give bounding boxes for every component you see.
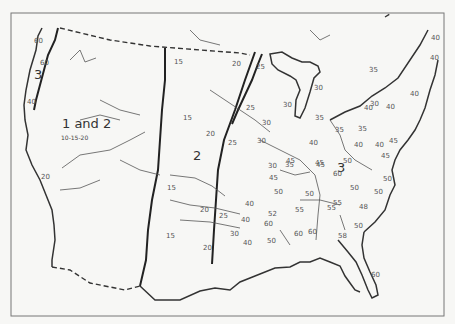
value-label: 40 <box>27 98 36 106</box>
value-label: 25 <box>246 104 255 112</box>
value-label: 50 <box>354 222 363 230</box>
value-label: 45 <box>316 161 325 169</box>
mexico-border <box>52 267 140 290</box>
value-label: 40 <box>309 139 318 147</box>
value-label: 60 <box>371 271 380 279</box>
value-label: 15 <box>174 58 183 66</box>
value-label: 55 <box>295 206 304 214</box>
zone-label: 3 <box>34 67 42 82</box>
value-label: 40 <box>386 103 395 111</box>
value-label: 45 <box>389 137 398 145</box>
zone-sublabel: 10-15-20 <box>61 134 88 141</box>
value-label: 15 <box>183 114 192 122</box>
value-label: 60 <box>294 230 303 238</box>
zone-label: 1 and 2 <box>62 116 111 131</box>
value-label: 45 <box>381 152 390 160</box>
value-label: 45 <box>269 174 278 182</box>
value-label: 20 <box>206 130 215 138</box>
value-label: 20 <box>232 60 241 68</box>
gulf-coastline <box>140 258 360 300</box>
value-label: 25 <box>219 212 228 220</box>
value-label: 60 <box>333 170 342 178</box>
lake-erie-ontario <box>330 30 428 120</box>
value-label: 15 <box>167 184 176 192</box>
value-label: 40 <box>430 54 439 62</box>
value-label: 48 <box>359 203 368 211</box>
value-label: 40 <box>243 239 252 247</box>
value-label: 55 <box>333 199 342 207</box>
value-label: 40 <box>241 216 250 224</box>
value-label: 35 <box>335 126 344 134</box>
value-label: 60 <box>308 228 317 236</box>
value-label: 52 <box>268 210 277 218</box>
value-label: 40 <box>364 104 373 112</box>
value-label: 50 <box>374 188 383 196</box>
value-label: 35 <box>369 66 378 74</box>
great-lakes-outline <box>270 52 320 118</box>
value-label: 60 <box>264 220 273 228</box>
value-label: 40 <box>410 90 419 98</box>
value-label: 20 <box>200 206 209 214</box>
value-label: 40 <box>375 141 384 149</box>
value-label: 20 <box>203 244 212 252</box>
value-label: 60 <box>40 59 49 67</box>
value-label: 25 <box>228 139 237 147</box>
value-label: 30 <box>283 101 292 109</box>
value-label: 60 <box>34 37 43 45</box>
value-label: 45 <box>286 157 295 165</box>
value-label: 50 <box>350 184 359 192</box>
value-label: 40 <box>431 34 440 42</box>
value-label: 30 <box>268 162 277 170</box>
value-label: 35 <box>358 125 367 133</box>
value-label: 50 <box>274 188 283 196</box>
canada-border <box>60 14 390 55</box>
value-label: 50 <box>305 190 314 198</box>
value-label: 40 <box>354 141 363 149</box>
isoline-values: 6060402015202530301520252530303035353535… <box>27 34 440 279</box>
value-label: 30 <box>262 119 271 127</box>
zone-label: 2 <box>193 148 201 163</box>
zone-boundary-rockies <box>140 48 165 286</box>
us-climate-zone-map: 3 1 and 2 2 3 10-15-20 60604020152025303… <box>0 0 455 324</box>
value-label: 30 <box>230 230 239 238</box>
value-label: 50 <box>267 237 276 245</box>
value-label: 50 <box>383 175 392 183</box>
value-label: 30 <box>257 137 266 145</box>
value-label: 30 <box>314 84 323 92</box>
value-label: 58 <box>338 232 347 240</box>
value-label: 15 <box>166 232 175 240</box>
value-label: 40 <box>245 200 254 208</box>
value-label: 20 <box>41 173 50 181</box>
florida-coastline <box>338 232 378 298</box>
value-label: 25 <box>256 63 265 71</box>
value-label: 50 <box>343 157 352 165</box>
value-label: 35 <box>315 114 324 122</box>
